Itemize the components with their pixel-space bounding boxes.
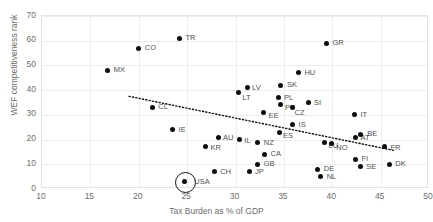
data-point-label: SE <box>366 163 376 171</box>
data-point-label: NZ <box>264 139 274 147</box>
y-axis-title: WEF competitiveness rank <box>9 0 19 155</box>
data-point <box>324 41 329 46</box>
data-point <box>358 164 363 169</box>
gridline-horizontal <box>42 16 427 17</box>
gridline-vertical <box>139 16 140 187</box>
data-point-label: ES <box>283 132 293 140</box>
data-point <box>322 140 327 145</box>
data-point-label: EE <box>269 112 279 120</box>
x-axis-tick-label: 10 <box>26 192 56 201</box>
data-point <box>315 167 320 172</box>
data-point-label: GR <box>332 39 343 47</box>
data-point-label: LT <box>242 94 250 102</box>
data-point-label: NL <box>327 173 337 181</box>
data-point <box>216 135 221 140</box>
data-point-label: CO <box>145 44 156 52</box>
data-point-label: USA <box>194 178 209 186</box>
data-point <box>212 169 217 174</box>
data-point <box>290 122 295 127</box>
data-point-label: JP <box>255 168 264 176</box>
data-point <box>182 179 187 184</box>
gridline-vertical <box>236 16 237 187</box>
data-point <box>382 144 387 149</box>
x-axis-tick-label: 20 <box>123 192 153 201</box>
data-point-label: IS <box>299 121 306 129</box>
scatter-chart-figure: 010203040506070 WEF competitiveness rank… <box>0 0 433 222</box>
data-point-label: SI <box>314 99 321 107</box>
data-point <box>177 36 182 41</box>
gridline-horizontal <box>42 115 427 116</box>
data-point-label: AU <box>223 134 233 142</box>
x-axis-tick-label: 35 <box>268 192 298 201</box>
data-point <box>277 130 282 135</box>
data-point-label: GB <box>264 160 275 168</box>
data-point <box>245 85 250 90</box>
data-point <box>170 127 175 132</box>
data-point <box>352 112 357 117</box>
data-point-label: LV <box>252 84 261 92</box>
data-point <box>136 46 141 51</box>
x-axis-tick-label: 40 <box>316 192 346 201</box>
data-point <box>105 68 110 73</box>
data-point-label: CL <box>158 103 168 111</box>
data-point <box>276 95 281 100</box>
x-axis-tick-label: 45 <box>365 192 395 201</box>
data-point <box>387 162 392 167</box>
data-point-label: DK <box>395 160 405 168</box>
data-point <box>318 174 323 179</box>
gridline-horizontal <box>42 41 427 42</box>
data-point <box>358 132 363 137</box>
x-axis-tick-label: 30 <box>220 192 250 201</box>
gridline-horizontal <box>42 65 427 66</box>
data-point-label: CZ <box>295 109 305 117</box>
data-point <box>236 90 241 95</box>
data-point-label: SK <box>287 81 297 89</box>
data-point-label: IL <box>244 137 250 145</box>
data-point <box>296 70 301 75</box>
data-point <box>306 100 311 105</box>
gridline-vertical <box>381 16 382 187</box>
data-point <box>262 152 267 157</box>
gridline-horizontal <box>42 90 427 91</box>
data-point-label: HU <box>304 69 315 77</box>
plot-area: MXCOTRCLIEGRHULTLVSKPLSIPTCZEEISESITATBE… <box>41 15 428 188</box>
data-point-label: CA <box>271 150 281 158</box>
data-point <box>255 140 260 145</box>
gridline-vertical <box>90 16 91 187</box>
data-point <box>203 144 208 149</box>
data-point-label: KR <box>211 144 221 152</box>
data-point-label: PL <box>284 94 293 102</box>
x-axis-tick-label: 15 <box>74 192 104 201</box>
x-axis-title: Tax Burden as % of GDP <box>0 206 433 216</box>
data-point <box>329 141 334 146</box>
x-axis-tick-label: 50 <box>413 192 433 201</box>
data-point <box>261 110 266 115</box>
data-point <box>150 105 155 110</box>
data-point <box>278 102 283 107</box>
data-point-label: IE <box>179 126 186 134</box>
data-point-label: NO <box>336 144 347 152</box>
data-point <box>278 83 283 88</box>
data-point-label: MX <box>114 66 125 74</box>
data-point <box>353 157 358 162</box>
data-point <box>247 169 252 174</box>
data-point-label: TR <box>185 34 195 42</box>
data-point-label: BE <box>367 130 377 138</box>
data-point-label: CH <box>220 168 231 176</box>
data-point-label: FR <box>390 144 400 152</box>
x-axis-tick-label: 25 <box>171 192 201 201</box>
data-point <box>237 137 242 142</box>
y-axis-title-host: WEF competitiveness rank <box>0 0 20 222</box>
data-point-label: IT <box>361 111 368 119</box>
